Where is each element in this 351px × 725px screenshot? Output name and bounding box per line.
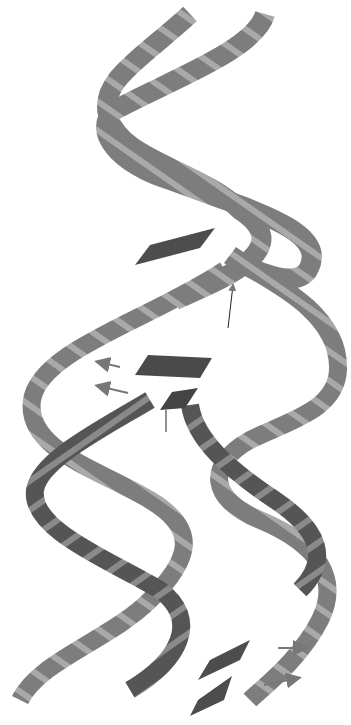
parental-helix-top xyxy=(106,14,312,300)
dna-replication-diagram xyxy=(0,0,351,725)
incoming-nucleotide-1 xyxy=(135,228,215,265)
forming-sugar-2 xyxy=(190,676,232,716)
forming-sugar-1 xyxy=(198,640,250,680)
arrow-c-to-g xyxy=(98,386,128,393)
replication-fork-pointer xyxy=(228,285,233,328)
arrow-g-to-c xyxy=(98,362,120,367)
incoming-nucleotide-g xyxy=(135,355,212,378)
parental-strand-left-fork xyxy=(20,270,225,700)
